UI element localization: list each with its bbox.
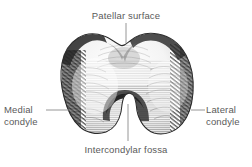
anatomy-figure: Patellar surface Medial condyle Lateral … [0,0,252,167]
label-patellar-surface: Patellar surface [0,10,252,22]
label-intercondylar-fossa: Intercondylar fossa [0,144,252,156]
label-medial-condyle: Medial condyle [4,104,46,127]
label-lateral-condyle: Lateral condyle [206,104,252,127]
femur-illustration [0,0,252,167]
femur-body [55,28,202,140]
